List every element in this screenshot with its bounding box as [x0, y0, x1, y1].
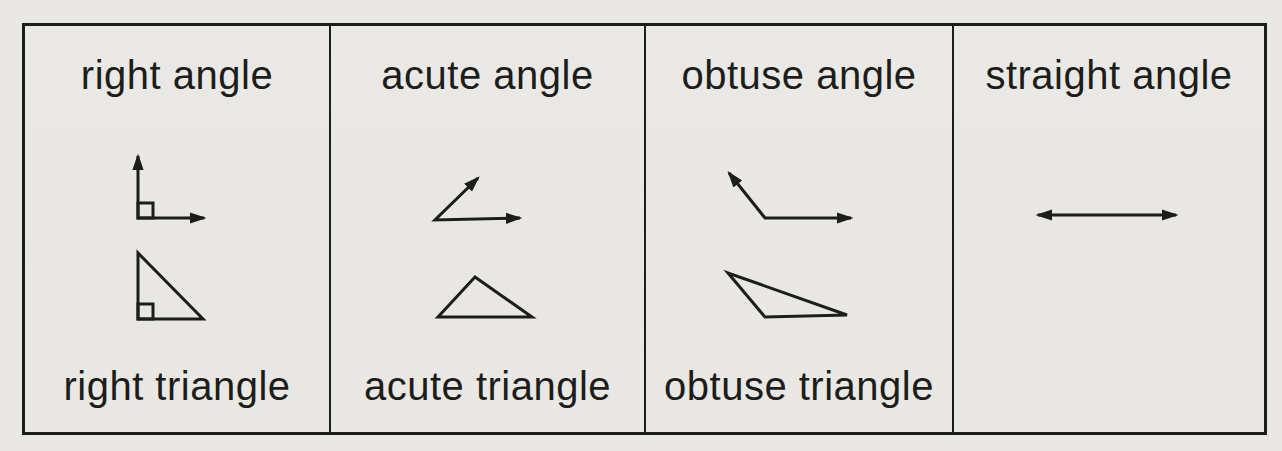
cell-acute-angle: acute angle acute triangle	[331, 26, 646, 432]
textbook-page: right angle right triangle acute angle	[0, 0, 1282, 451]
cell-obtuse-angle: obtuse angle obtuse triangle	[646, 26, 954, 432]
right-angle-mark-icon	[138, 304, 153, 319]
angle-type-title: straight angle	[954, 53, 1264, 97]
acute-angle-figure	[432, 168, 530, 226]
right-triangle-figure	[136, 251, 206, 323]
acute-triangle-figure	[436, 275, 534, 319]
obtuse-angle-figure	[723, 166, 859, 224]
right-angle-figure	[124, 144, 216, 224]
angle-type-title: right angle	[25, 53, 329, 97]
triangle-type-caption: acute triangle	[331, 364, 644, 408]
triangle-type-caption: obtuse triangle	[646, 364, 952, 408]
triangle-type-caption: right triangle	[25, 364, 329, 408]
straight-angle-figure	[1030, 204, 1182, 226]
angle-type-title: obtuse angle	[646, 53, 952, 97]
cell-right-angle: right angle right triangle	[25, 26, 331, 432]
right-angle-mark-icon	[138, 203, 153, 218]
cell-straight-angle: straight angle	[954, 26, 1264, 432]
angle-type-title: acute angle	[331, 53, 644, 97]
obtuse-triangle-figure	[726, 271, 850, 320]
angle-types-table: right angle right triangle acute angle	[22, 23, 1267, 435]
